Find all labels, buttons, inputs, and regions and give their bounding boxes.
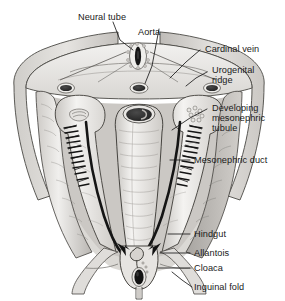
label-aorta: Aorta bbox=[138, 27, 160, 37]
label-developing-tubule-3: tubule bbox=[212, 123, 237, 133]
aorta-structure bbox=[130, 83, 148, 93]
cloaca-structure bbox=[132, 268, 146, 287]
label-developing-tubule-1: Developing bbox=[212, 103, 258, 113]
label-developing-tubule-2: mesonephric bbox=[212, 113, 265, 123]
label-cloaca: Cloaca bbox=[194, 263, 223, 273]
label-hindgut: Hindgut bbox=[194, 229, 226, 239]
label-cardinal-vein: Cardinal vein bbox=[205, 44, 259, 54]
label-allantois: Allantois bbox=[194, 248, 229, 258]
label-inguinal-fold: Inguinal fold bbox=[194, 282, 244, 292]
label-urogenital-ridge-1: Urogenital bbox=[212, 65, 254, 75]
label-mesonephric-duct: Mesonephric duct bbox=[194, 155, 267, 165]
label-urogenital-ridge-2: ridge bbox=[212, 75, 233, 85]
label-neural-tube: Neural tube bbox=[78, 12, 126, 22]
